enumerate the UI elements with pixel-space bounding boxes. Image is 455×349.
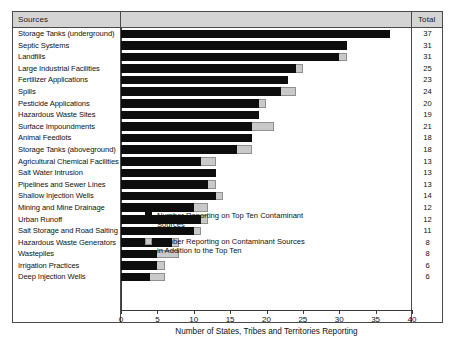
bar-track <box>121 192 411 201</box>
legend-item-secondary: Number Reporting on Contaminant Sources … <box>145 237 320 256</box>
bar-segment-secondary <box>281 87 296 96</box>
table-row: Agricultural Chemical Facilities13 <box>13 156 442 168</box>
bar-segment-secondary <box>157 261 164 270</box>
bar-segment-primary <box>121 145 237 154</box>
bar-segment-secondary <box>201 157 216 166</box>
stacked-bar <box>121 157 216 166</box>
chart-body: Storage Tanks (underground)37Septic Syst… <box>13 28 442 323</box>
row-label-source: Storage Tanks (aboveground) <box>18 144 118 156</box>
stacked-bar <box>121 273 165 282</box>
bar-segment-primary <box>121 64 296 73</box>
x-axis-tick-label: 25 <box>298 315 307 324</box>
column-header-total: Total <box>418 15 435 24</box>
row-label-source: Shallow Injection Wells <box>18 190 118 202</box>
bar-segment-primary <box>121 157 201 166</box>
row-total-value: 31 <box>412 40 443 52</box>
row-total-value: 18 <box>412 132 443 144</box>
bar-track <box>121 41 411 50</box>
row-label-source: Surface Impoundments <box>18 121 118 133</box>
x-axis-tick-mark <box>157 310 158 314</box>
stacked-bar <box>121 180 216 189</box>
row-label-source: Salt Storage and Road Salting <box>18 225 118 237</box>
x-axis-title: Number of States, Tribes and Territories… <box>121 327 412 336</box>
row-label-source: Irrigation Practices <box>18 260 118 272</box>
bar-segment-primary <box>121 30 390 39</box>
row-total-value: 6 <box>412 271 443 283</box>
x-axis-tick-label: 40 <box>408 315 417 324</box>
row-label-source: Hazardous Waste Sites <box>18 109 118 121</box>
x-axis-tick-label: 0 <box>119 315 123 324</box>
row-total-value: 21 <box>412 121 443 133</box>
table-row: Large Industrial Facilities25 <box>13 63 442 75</box>
row-total-value: 13 <box>412 179 443 191</box>
table-row: Storage Tanks (aboveground)18 <box>13 144 442 156</box>
bar-track <box>121 134 411 143</box>
x-axis-tick-mark <box>194 310 195 314</box>
bar-segment-primary <box>121 169 216 178</box>
row-label-source: Spills <box>18 86 118 98</box>
row-total-value: 24 <box>412 86 443 98</box>
stacked-bar <box>121 169 216 178</box>
table-row: Shallow Injection Wells14 <box>13 190 442 202</box>
legend-label-primary: Number Reporting on Top Ten Contaminant … <box>157 211 309 230</box>
row-label-source: Deep Injection Wells <box>18 271 118 283</box>
row-label-source: Mining and Mine Drainage <box>18 202 118 214</box>
x-axis-tick-mark <box>230 310 231 314</box>
stacked-bar <box>121 122 274 131</box>
legend-item-primary: Number Reporting on Top Ten Contaminant … <box>145 211 320 230</box>
table-row: Storage Tanks (underground)37 <box>13 28 442 40</box>
x-axis-tick-label: 20 <box>262 315 271 324</box>
table-row: Pipelines and Sewer Lines13 <box>13 179 442 191</box>
row-total-value: 12 <box>412 214 443 226</box>
stacked-bar <box>121 99 266 108</box>
row-total-value: 11 <box>412 225 443 237</box>
bar-track <box>121 122 411 131</box>
bar-segment-primary <box>121 111 259 120</box>
table-row: Spills24 <box>13 86 442 98</box>
stacked-bar <box>121 87 296 96</box>
row-label-source: Landfills <box>18 51 118 63</box>
row-total-value: 6 <box>412 260 443 272</box>
table-header-row: Sources Total <box>13 12 442 28</box>
bar-segment-secondary <box>339 53 346 62</box>
bar-track <box>121 145 411 154</box>
row-total-value: 18 <box>412 144 443 156</box>
table-row: Hazardous Waste Sites19 <box>13 109 442 121</box>
bar-track <box>121 273 411 282</box>
row-label-source: Wastepiles <box>18 248 118 260</box>
x-axis-tick-label: 35 <box>371 315 380 324</box>
x-axis-tick-mark <box>339 310 340 314</box>
bar-segment-primary <box>121 76 288 85</box>
bar-segment-primary <box>121 273 150 282</box>
bar-segment-secondary <box>252 122 274 131</box>
bar-track <box>121 99 411 108</box>
row-label-source: Pesticide Applications <box>18 98 118 110</box>
bar-segment-secondary <box>237 145 252 154</box>
x-axis-tick-label: 15 <box>226 315 235 324</box>
stacked-bar <box>121 53 347 62</box>
bar-segment-primary <box>121 122 252 131</box>
bar-segment-secondary <box>259 99 266 108</box>
table-row: Septic Systems31 <box>13 40 442 52</box>
row-label-source: Urban Runoff <box>18 214 118 226</box>
table-row: Pesticide Applications20 <box>13 98 442 110</box>
row-total-value: 20 <box>412 98 443 110</box>
row-label-source: Pipelines and Sewer Lines <box>18 179 118 191</box>
bar-segment-primary <box>121 261 157 270</box>
bar-segment-primary <box>121 87 281 96</box>
row-total-value: 13 <box>412 167 443 179</box>
bar-track <box>121 180 411 189</box>
bar-track <box>121 76 411 85</box>
row-label-source: Large Industrial Facilities <box>18 63 118 75</box>
x-axis-tick-mark <box>376 310 377 314</box>
bar-track <box>121 64 411 73</box>
bar-segment-primary <box>121 41 347 50</box>
row-total-value: 8 <box>412 237 443 249</box>
x-axis-tick-label: 10 <box>189 315 198 324</box>
stacked-bar <box>121 41 347 50</box>
table-row: Landfills31 <box>13 51 442 63</box>
x-axis-tick-mark <box>412 310 413 314</box>
stacked-bar <box>121 64 303 73</box>
x-axis-tick-label: 5 <box>155 315 159 324</box>
row-total-value: 23 <box>412 74 443 86</box>
